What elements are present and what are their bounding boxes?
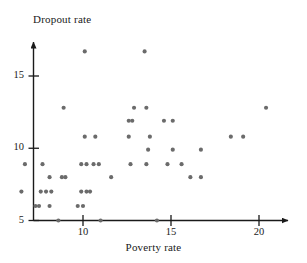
data-point: [79, 190, 83, 194]
data-point: [44, 190, 48, 194]
data-point: [144, 106, 148, 110]
data-point: [144, 162, 148, 166]
data-point: [47, 175, 51, 179]
data-point: [155, 218, 159, 222]
data-point: [128, 162, 132, 166]
data-point: [127, 119, 131, 123]
x-tick-label: 10: [71, 226, 95, 237]
data-point: [171, 148, 175, 152]
data-point: [97, 162, 101, 166]
data-point: [109, 175, 113, 179]
data-point: [188, 175, 192, 179]
data-point: [37, 204, 41, 208]
data-point: [143, 49, 147, 53]
data-point: [264, 106, 268, 110]
data-point: [83, 49, 87, 53]
x-tick-label: 15: [159, 226, 183, 237]
data-point: [33, 204, 37, 208]
data-point: [199, 175, 203, 179]
data-point: [79, 162, 83, 166]
data-point: [93, 135, 97, 139]
data-point: [40, 162, 44, 166]
data-point: [23, 162, 27, 166]
data-point: [132, 106, 136, 110]
data-point: [76, 204, 80, 208]
data-point-series: [19, 49, 268, 222]
data-point: [229, 135, 233, 139]
data-point: [165, 162, 169, 166]
data-point: [49, 190, 53, 194]
data-point: [81, 204, 85, 208]
plot-canvas: [0, 0, 307, 263]
data-point: [62, 106, 66, 110]
x-axis-title: Poverty rate: [0, 241, 307, 253]
data-point: [199, 148, 203, 152]
data-point: [179, 162, 183, 166]
data-point: [39, 190, 43, 194]
data-point: [148, 135, 152, 139]
x-tick-label: 20: [247, 226, 271, 237]
data-point: [171, 119, 175, 123]
y-tick-label: 10: [2, 141, 24, 152]
data-point: [127, 135, 131, 139]
axis-lines: [34, 42, 289, 221]
data-point: [83, 135, 87, 139]
data-point: [99, 218, 103, 222]
data-point: [88, 190, 92, 194]
data-point: [162, 119, 166, 123]
data-point: [19, 190, 23, 194]
y-tick-label: 5: [2, 214, 24, 225]
data-point: [60, 175, 64, 179]
data-point: [241, 135, 245, 139]
y-tick-label: 15: [2, 69, 24, 80]
data-point: [84, 190, 88, 194]
data-point: [47, 204, 51, 208]
data-point: [56, 218, 60, 222]
data-point: [84, 162, 88, 166]
data-point: [63, 175, 67, 179]
data-point: [91, 162, 95, 166]
scatter-plot-figure: Dropout rate 15105101520 Poverty rate: [0, 0, 307, 263]
data-point: [146, 148, 150, 152]
data-point: [130, 119, 134, 123]
